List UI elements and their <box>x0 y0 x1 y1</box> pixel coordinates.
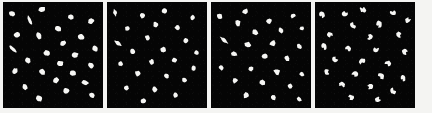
particle <box>63 88 70 94</box>
particle <box>230 51 238 58</box>
particle <box>323 68 330 76</box>
panel-1[interactable] <box>3 2 103 108</box>
particle <box>124 85 130 91</box>
particle <box>269 40 277 48</box>
particle <box>266 18 272 24</box>
panel-1-canvas <box>3 2 103 108</box>
particle <box>261 53 268 59</box>
particle <box>71 51 79 59</box>
figure-root <box>0 0 432 113</box>
particle <box>140 98 147 105</box>
particle <box>348 94 355 101</box>
particle <box>160 46 166 52</box>
particle <box>277 26 284 34</box>
particle <box>373 47 380 53</box>
particle <box>92 45 99 52</box>
particle <box>152 21 159 29</box>
particle <box>173 92 179 99</box>
particle <box>189 14 195 21</box>
particle <box>283 54 291 62</box>
particle <box>366 33 374 41</box>
panel-strip <box>0 0 432 113</box>
particle <box>242 8 249 15</box>
particle <box>113 39 122 48</box>
particle <box>151 86 158 93</box>
particle <box>125 26 130 31</box>
particle <box>341 10 349 17</box>
particle <box>87 17 95 25</box>
panel-4[interactable] <box>315 2 415 108</box>
particle <box>242 91 250 99</box>
particle <box>219 35 230 45</box>
right-margin <box>415 0 419 113</box>
particle <box>234 19 242 28</box>
particle <box>54 24 62 33</box>
particle <box>216 12 224 20</box>
particle <box>35 31 42 39</box>
particle <box>26 15 33 25</box>
particle <box>139 12 146 19</box>
particle <box>296 96 303 102</box>
particle <box>118 61 124 67</box>
particle <box>88 91 95 99</box>
panel-2-canvas <box>107 2 207 108</box>
particle <box>232 77 239 84</box>
particle <box>190 65 197 72</box>
particle <box>38 6 46 13</box>
particle <box>35 94 43 102</box>
particle <box>299 71 305 77</box>
particle <box>296 43 303 51</box>
particle <box>299 26 304 31</box>
particle <box>8 10 16 17</box>
particle <box>320 42 327 51</box>
particle <box>77 33 85 40</box>
panel-2[interactable] <box>107 2 207 108</box>
particle <box>318 11 325 19</box>
particle <box>404 16 412 24</box>
panel-3[interactable] <box>211 2 311 108</box>
particle <box>351 71 358 77</box>
particle <box>395 31 403 39</box>
particle <box>182 37 189 44</box>
particle <box>338 81 346 88</box>
particle <box>87 62 95 70</box>
particle <box>273 68 281 75</box>
particle <box>331 55 339 63</box>
particle <box>148 58 155 65</box>
particle <box>52 76 60 84</box>
particle <box>287 83 292 89</box>
particle <box>129 48 136 56</box>
particle <box>13 32 20 38</box>
particle <box>358 57 367 66</box>
particle <box>81 79 89 86</box>
particle <box>24 56 32 64</box>
particle <box>218 64 224 71</box>
particle <box>326 32 333 39</box>
particle <box>270 94 277 102</box>
particle <box>374 96 381 103</box>
particle <box>376 20 382 28</box>
particle <box>248 65 255 72</box>
particle <box>144 34 151 41</box>
particle <box>68 14 74 20</box>
particle <box>367 83 375 91</box>
particle <box>8 45 17 54</box>
particle <box>345 45 351 51</box>
particle <box>400 74 406 82</box>
particle <box>244 41 252 48</box>
particle <box>43 50 50 56</box>
particle <box>171 57 177 63</box>
panel-4-canvas <box>315 2 415 108</box>
particle <box>161 7 168 15</box>
particle <box>252 29 260 36</box>
particle <box>290 12 297 19</box>
particle <box>69 70 76 77</box>
particle <box>11 67 19 75</box>
particle <box>21 83 28 91</box>
particle <box>181 77 187 83</box>
particle <box>38 68 46 77</box>
particle <box>134 69 141 77</box>
particle <box>59 39 67 47</box>
particle <box>57 61 63 66</box>
particle <box>174 24 180 31</box>
